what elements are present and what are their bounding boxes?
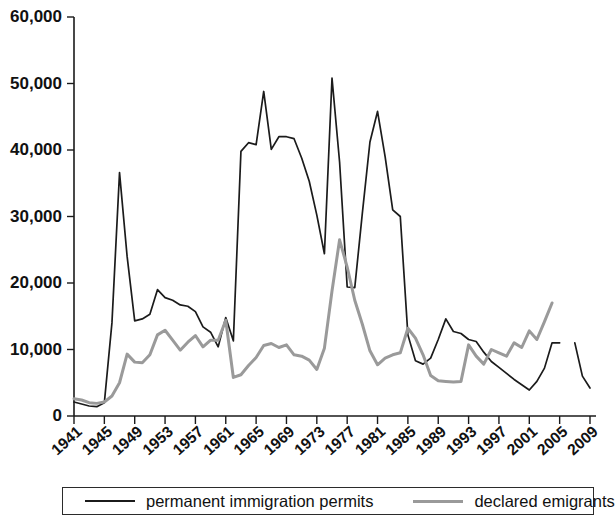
x-tick-label: 1945 (78, 422, 115, 458)
x-tick-label: 1997 (473, 423, 510, 459)
x-tick-label: 1949 (109, 422, 146, 458)
x-tick-label: 1953 (139, 422, 176, 458)
legend-label-permanent-immigration-permits: permanent immigration permits (146, 492, 373, 511)
legend-label-declared-emigrants: declared emigrants (474, 492, 614, 511)
x-tick-label: 1941 (48, 422, 85, 458)
x-tick-label: 2001 (503, 422, 540, 458)
series-path-0 (575, 343, 590, 388)
x-tick-label: 1977 (321, 423, 358, 459)
x-tick-label: 1981 (352, 422, 389, 458)
legend-item-permanent-immigration-permits: permanent immigration permits (85, 492, 373, 511)
x-tick-label: 2005 (534, 422, 571, 458)
x-tick-label: 2009 (564, 422, 601, 458)
y-tick-label: 60,000 (10, 7, 62, 26)
x-tick-label: 1973 (291, 422, 328, 458)
chart-legend: permanent immigration permits declared e… (62, 487, 594, 515)
x-tick-label: 1969 (260, 422, 297, 458)
y-tick-label: 10,000 (10, 340, 62, 359)
y-tick-label: 0 (53, 406, 62, 425)
x-tick-label: 1985 (382, 422, 419, 458)
legend-item-declared-emigrants: declared emigrants (413, 492, 614, 511)
y-tick-label: 50,000 (10, 74, 62, 93)
x-tick-label: 1957 (169, 423, 206, 459)
y-tick-label: 40,000 (10, 140, 62, 159)
series-path-1 (74, 240, 552, 404)
x-tick-label: 1989 (412, 422, 449, 458)
x-tick-label: 1965 (230, 422, 267, 458)
y-tick-label: 20,000 (10, 273, 62, 292)
x-tick-label: 1993 (443, 422, 480, 458)
legend-swatch-gray-line-icon (413, 500, 463, 503)
x-tick-label: 1961 (200, 422, 237, 458)
y-tick-label: 30,000 (10, 207, 62, 226)
legend-swatch-dark-line-icon (85, 500, 135, 502)
